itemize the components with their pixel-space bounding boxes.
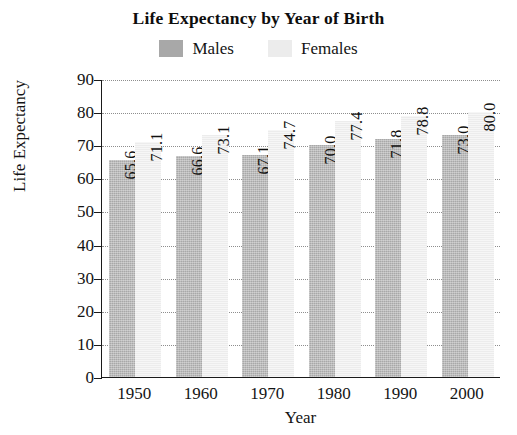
y-tick-label: 70 (52, 136, 94, 156)
bar-value-label: 74.7 (281, 120, 299, 149)
bar-males-2000: 73.0 (442, 135, 468, 377)
gridline (102, 279, 500, 280)
x-tick-label: 1990 (365, 384, 435, 404)
bar-males-1990: 71.8 (375, 139, 401, 377)
gridline (102, 80, 500, 81)
y-tick-label: 30 (52, 269, 94, 289)
bar-value-label: 77.4 (348, 111, 366, 140)
bar-females-1970: 74.7 (268, 130, 294, 377)
y-tick-label: 20 (52, 302, 94, 322)
y-tick-label: 90 (52, 70, 94, 90)
bar-chart: Life Expectancy by Year of Birth Males F… (0, 0, 517, 435)
bar-females-1950: 71.1 (135, 142, 161, 377)
bar-males-1980: 70.0 (309, 145, 335, 377)
bar-males-1950: 65.6 (109, 160, 135, 377)
bar-value-label: 73.1 (215, 125, 233, 154)
gridline (102, 246, 500, 247)
gridline (102, 113, 500, 114)
y-tick-label: 50 (52, 202, 94, 222)
bar-females-1960: 73.1 (202, 135, 228, 377)
x-tick-label: 1950 (99, 384, 169, 404)
x-tick-label: 1980 (299, 384, 369, 404)
gridline (102, 345, 500, 346)
bar-males-1960: 66.6 (176, 156, 202, 377)
y-tick-label: 40 (52, 236, 94, 256)
x-tick-label: 1970 (232, 384, 302, 404)
gridline (102, 212, 500, 213)
y-tick-mark (94, 378, 102, 379)
y-tick-label: 0 (52, 368, 94, 388)
bar-females-1980: 77.4 (335, 121, 361, 377)
y-tick-label: 80 (52, 103, 94, 123)
bar-value-label: 80.0 (481, 103, 499, 132)
gridline (102, 179, 500, 180)
x-tick-label: 1960 (166, 384, 236, 404)
bar-females-1990: 78.8 (401, 116, 427, 377)
bar-females-2000: 80.0 (468, 112, 494, 377)
x-axis-title: Year (101, 408, 500, 428)
y-tick-label: 10 (52, 335, 94, 355)
x-tick-label: 2000 (432, 384, 502, 404)
y-tick-label: 60 (52, 169, 94, 189)
bar-value-label: 71.1 (148, 132, 166, 161)
bar-value-label: 78.8 (414, 106, 432, 135)
gridline (102, 312, 500, 313)
bar-males-1970: 67.1 (242, 155, 268, 377)
plot-area: 65.671.166.673.167.174.770.077.471.878.8… (101, 80, 500, 378)
